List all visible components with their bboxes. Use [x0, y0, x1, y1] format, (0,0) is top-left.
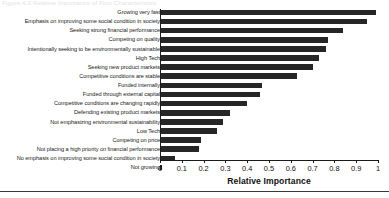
bar — [160, 128, 217, 134]
bar — [160, 110, 230, 116]
x-axis-tick-label: 0.9 — [351, 164, 361, 173]
bar — [160, 101, 247, 107]
bar — [160, 10, 376, 16]
bar — [160, 119, 223, 125]
x-axis-tick — [356, 160, 357, 163]
bar-row: Competitive conditions are changing rapi… — [0, 99, 389, 108]
bar-row: Growing very fast — [0, 8, 389, 17]
x-axis-tick — [204, 160, 205, 163]
bar-category-label: Seeking new product markets — [88, 63, 160, 72]
bar-track — [160, 72, 378, 81]
bar-track — [160, 81, 378, 90]
x-axis-tick — [160, 160, 161, 163]
x-axis-tick-label: 0.3 — [220, 164, 230, 173]
x-axis-tick-label: 0.7 — [307, 164, 317, 173]
bar-track — [160, 63, 378, 72]
bottom-rule — [0, 191, 389, 192]
bar-chart-plot-area: Growing very fastEmphasis on improving s… — [0, 8, 389, 160]
bar-track — [160, 17, 378, 26]
x-axis-tick-label: 0.5 — [264, 164, 274, 173]
x-axis-tick-label: 0 — [158, 164, 162, 173]
bar-category-label: Not placing a high priority on financial… — [37, 145, 160, 154]
bar-row: Competing on price — [0, 136, 389, 145]
x-axis-tick — [378, 160, 379, 163]
x-axis-tick-label: 0.6 — [286, 164, 296, 173]
x-axis-tick — [334, 160, 335, 163]
bar-track — [160, 136, 378, 145]
x-axis-tick-label: 0.4 — [242, 164, 252, 173]
bar — [160, 137, 201, 143]
bar-category-label: Intentionally seeking to be environmenta… — [27, 45, 160, 54]
x-axis-tick — [291, 160, 292, 163]
x-axis-tick — [182, 160, 183, 163]
x-axis-tick-label: 0.2 — [198, 164, 208, 173]
x-axis-tick — [313, 160, 314, 163]
bar-category-label: Funded through external capital — [83, 90, 160, 99]
bar-category-label: Not emphasizing environmental sustainabi… — [50, 118, 160, 127]
bar-category-label: Competing on price — [112, 136, 160, 145]
x-axis-tick-label: 0.1 — [177, 164, 187, 173]
bar-row: Not placing a high priority on financial… — [0, 145, 389, 154]
bar — [160, 28, 343, 34]
bar-category-label: Seeking strong financial performance — [69, 26, 160, 35]
bar-row: Low Tech — [0, 127, 389, 136]
x-axis-title: Relative Importance — [160, 176, 378, 186]
bar — [160, 55, 319, 61]
bar-track — [160, 118, 378, 127]
bar-track — [160, 145, 378, 154]
bar-category-label: Competitive conditions are stable — [79, 72, 160, 81]
x-axis-tick-label: 1 — [376, 164, 380, 173]
bar-track — [160, 108, 378, 117]
bar-row: Funded internally — [0, 81, 389, 90]
bar-category-label: Emphasis on improving some social condit… — [25, 17, 160, 26]
bar-track — [160, 99, 378, 108]
bar — [160, 64, 313, 70]
bar-row: Competing on quality — [0, 35, 389, 44]
y-axis-line — [160, 9, 161, 161]
bar-category-label: Competitive conditions are changing rapi… — [54, 99, 160, 108]
figure-container: Figure 4.2 Relative Importance of Firm C… — [0, 0, 389, 198]
bar-track — [160, 8, 378, 17]
bar — [160, 19, 367, 25]
bar — [160, 46, 326, 52]
bar-track — [160, 35, 378, 44]
bar-row: Seeking strong financial performance — [0, 26, 389, 35]
bar-track — [160, 26, 378, 35]
x-axis-tick — [247, 160, 248, 163]
bar — [160, 37, 328, 43]
bar-row: Not emphasizing environmental sustainabi… — [0, 118, 389, 127]
bar-row: Defending existing product markets — [0, 108, 389, 117]
bar-category-label: Competing on quality — [108, 35, 160, 44]
bar-category-label: No emphasis on improving some social con… — [17, 154, 160, 163]
bar-row: High Tech — [0, 54, 389, 63]
bar-row: No emphasis on improving some social con… — [0, 154, 389, 163]
bar-category-label: Not growing — [131, 163, 160, 172]
bar-category-label: High Tech — [136, 54, 160, 63]
bar-row: Intentionally seeking to be environmenta… — [0, 45, 389, 54]
bar-track — [160, 45, 378, 54]
bar-track — [160, 90, 378, 99]
bar — [160, 73, 297, 79]
bar-track — [160, 54, 378, 63]
figure-caption-fragment: Figure 4.2 Relative Importance of Firm C… — [0, 0, 389, 7]
bar-track — [160, 127, 378, 136]
bar-category-label: Funded internally — [118, 81, 160, 90]
x-axis-tick — [269, 160, 270, 163]
bar-category-label: Growing very fast — [117, 8, 160, 17]
bar — [160, 92, 260, 98]
bar-category-label: Defending existing product markets — [74, 108, 160, 117]
x-axis-tick — [225, 160, 226, 163]
bar-row: Funded through external capital — [0, 90, 389, 99]
bar — [160, 83, 262, 89]
bar-row: Emphasis on improving some social condit… — [0, 17, 389, 26]
bar — [160, 146, 199, 152]
bar-row: Seeking new product markets — [0, 63, 389, 72]
x-axis-tick-label: 0.8 — [329, 164, 339, 173]
bar-rows: Growing very fastEmphasis on improving s… — [0, 8, 389, 160]
bar-category-label: Low Tech — [137, 127, 160, 136]
bar-row: Competitive conditions are stable — [0, 72, 389, 81]
